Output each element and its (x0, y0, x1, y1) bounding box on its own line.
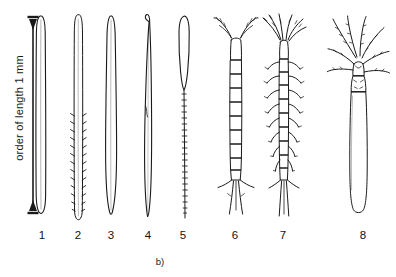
specimen-label-2: 2 (70, 229, 86, 241)
scale-bar-label: order of length 1 mm (13, 28, 25, 188)
specimen-label-8: 8 (355, 229, 371, 241)
specimen-7-many-legged-arthropod (255, 10, 313, 224)
specimen-4-hook-headed-worm (136, 10, 162, 224)
specimen-label-5: 5 (175, 229, 191, 241)
figure-panel-b: order of length 1 mm (0, 0, 396, 277)
specimen-label-6: 6 (227, 229, 243, 241)
specimen-3-tapered-smooth-worm (99, 10, 125, 222)
specimen-label-3: 3 (103, 229, 119, 241)
panel-caption: b) (140, 256, 180, 267)
specimen-1-slender-smooth-worm (30, 10, 54, 222)
specimen-2-bristled-worm (66, 10, 92, 224)
specimen-5-beaded-tail-worm (172, 10, 198, 226)
specimen-label-4: 4 (140, 229, 156, 241)
specimen-label-1: 1 (34, 229, 50, 241)
specimen-8-tube-body-crowned-organism (326, 10, 392, 222)
specimen-label-7: 7 (275, 229, 291, 241)
